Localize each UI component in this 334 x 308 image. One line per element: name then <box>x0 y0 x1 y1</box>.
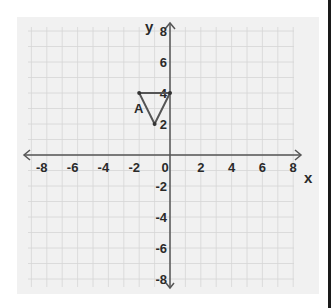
x-tick-label: 2 <box>197 160 204 175</box>
x-tick-label: -4 <box>98 160 110 175</box>
y-tick-label: 6 <box>160 55 167 70</box>
x-tick-label: -8 <box>36 160 48 175</box>
x-tick-label: -6 <box>67 160 79 175</box>
y-tick-label: -6 <box>155 241 167 256</box>
x-tick-label: 8 <box>290 160 297 175</box>
vertex-point <box>153 122 157 126</box>
y-axis-label: y <box>145 18 154 35</box>
x-tick-label: 6 <box>259 160 266 175</box>
x-tick-label: 4 <box>228 160 236 175</box>
y-tick-label: 2 <box>160 117 167 132</box>
x-tick-labels: -8-6-4-202468 <box>36 160 297 175</box>
coordinate-plane: -8-6-4-202468 2468-2-4-6-8 y x A <box>0 0 334 308</box>
vertex-point <box>168 91 172 95</box>
x-axis-label: x <box>304 169 313 186</box>
y-tick-label: -8 <box>155 272 167 287</box>
triangle-label: A <box>134 101 144 116</box>
vertex-point <box>137 91 141 95</box>
y-tick-label: -2 <box>155 179 167 194</box>
x-tick-label: 0 <box>161 160 168 175</box>
y-tick-label: 8 <box>160 24 167 39</box>
x-tick-label: -2 <box>128 160 140 175</box>
y-tick-label: -4 <box>155 210 167 225</box>
